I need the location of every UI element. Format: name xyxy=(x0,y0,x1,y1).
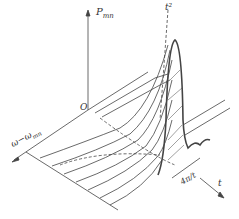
y-axis-label: Pmn xyxy=(96,6,114,20)
y-axis-arrow xyxy=(86,10,90,16)
surface-plot xyxy=(0,0,239,219)
peak-profile xyxy=(158,40,210,175)
time-axis-label: t xyxy=(218,178,222,188)
diagram: Pmn t² O ω−ωmn 4π/t t xyxy=(0,0,239,219)
peak-curve-label: t² xyxy=(165,2,172,12)
origin-label: O xyxy=(80,102,87,112)
